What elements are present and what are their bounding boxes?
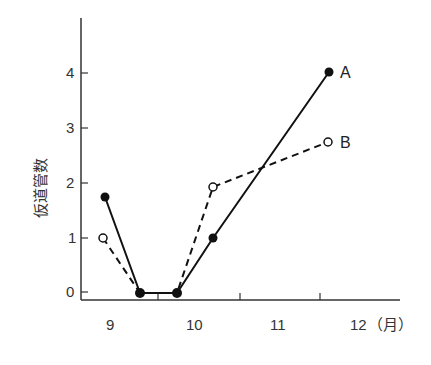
x-tick-label-11: 11 xyxy=(270,316,286,333)
x-tick-label-12: 12 xyxy=(350,316,367,333)
x-tick-label-10: 10 xyxy=(186,316,203,333)
y-tick-label-3: 3 xyxy=(66,119,74,136)
x-tick-label-9: 9 xyxy=(106,316,114,333)
y-axis-title: 仮道管数 xyxy=(32,158,50,218)
line-chart: 4 3 2 1 0 9 10 11 12 （月） 仮道管数 A B xyxy=(0,0,431,365)
series-a-markers xyxy=(101,68,334,299)
y-ticks xyxy=(81,73,88,292)
series-b-label: B xyxy=(340,134,351,151)
y-tick-label-2: 2 xyxy=(66,174,74,191)
y-tick-label-1: 1 xyxy=(68,229,76,246)
x-ticks xyxy=(158,293,320,300)
y-tick-label-0: 0 xyxy=(66,283,74,300)
series-a-line xyxy=(105,72,329,293)
y-tick-label-4: 4 xyxy=(66,64,74,81)
x-axis-unit: （月） xyxy=(368,316,413,333)
series-a-label: A xyxy=(340,64,351,81)
series-b-line xyxy=(103,142,328,293)
